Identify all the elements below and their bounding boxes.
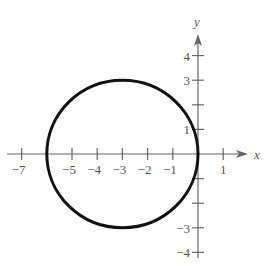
x-tick-label: −2 [138, 162, 152, 177]
x-tick-label: −1 [163, 162, 177, 177]
x-tick-label: −4 [87, 162, 101, 177]
x-tick-label: −5 [62, 162, 76, 177]
y-tick-label: −4 [176, 245, 190, 260]
y-tick-label: 1 [184, 122, 191, 137]
y-axis-label: y [192, 14, 200, 29]
y-tick-label: 4 [184, 49, 191, 64]
axes [7, 34, 248, 258]
x-axis-label: x [253, 147, 260, 162]
coordinate-plot: −7−5−4−3−2−11431−3−4 x y [0, 0, 275, 266]
y-tick-label: −3 [176, 221, 190, 236]
x-tick-label: −3 [112, 162, 126, 177]
x-tick-label: 1 [220, 162, 227, 177]
x-tick-label: −7 [12, 162, 26, 177]
y-tick-label: 3 [184, 73, 191, 88]
